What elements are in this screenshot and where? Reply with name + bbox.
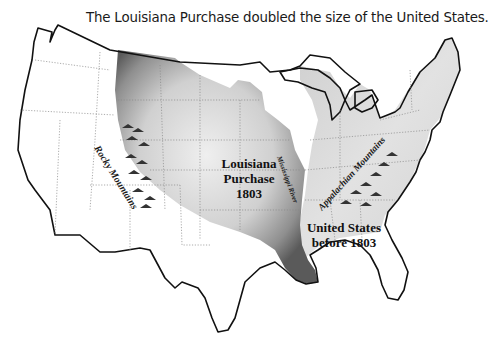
label-louisiana-purchase-line2: Purchase (223, 171, 274, 186)
label-united-states-line1: United States (307, 220, 381, 235)
label-louisiana-purchase-line1: Louisiana (222, 156, 277, 171)
label-united-states-line2: before 1803 (312, 235, 377, 250)
label-louisiana-purchase-year: 1803 (236, 186, 263, 201)
